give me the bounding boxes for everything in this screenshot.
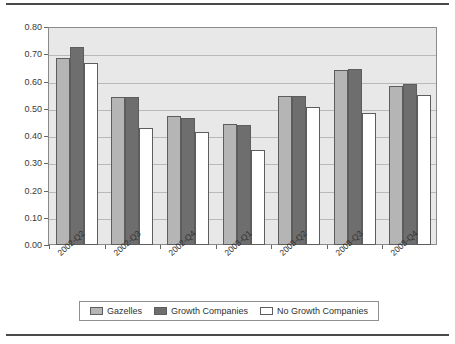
y-axis-tick-label: 0.80: [24, 23, 42, 32]
legend-label: Gazelles: [107, 306, 142, 316]
y-axis-tick-label: 0.60: [24, 78, 42, 87]
legend-swatch-icon: [90, 307, 103, 315]
bar[interactable]: [84, 63, 98, 245]
bar-group: [278, 28, 320, 245]
bars-layer: [49, 28, 436, 245]
bar[interactable]: [56, 58, 70, 245]
bar-group: [389, 28, 431, 245]
legend-swatch-icon: [260, 307, 273, 315]
bar[interactable]: [292, 96, 306, 245]
chart-figure: 0.800.700.600.500.400.300.200.100.00 200…: [0, 0, 455, 344]
bar[interactable]: [167, 116, 181, 245]
bar[interactable]: [125, 97, 139, 245]
bar[interactable]: [139, 128, 153, 245]
x-axis-tick-mark: [160, 245, 161, 249]
bar[interactable]: [251, 150, 265, 245]
y-axis: 0.800.700.600.500.400.300.200.100.00: [0, 20, 48, 252]
bar[interactable]: [334, 70, 348, 245]
legend-item[interactable]: Growth Companies: [154, 306, 248, 316]
bar-group: [167, 28, 209, 245]
bar-group: [223, 28, 265, 245]
bar-group: [111, 28, 153, 245]
bar-group: [334, 28, 376, 245]
x-axis-tick-mark: [49, 245, 50, 249]
bar[interactable]: [70, 47, 84, 245]
chart-legend: GazellesGrowth CompaniesNo Growth Compan…: [79, 301, 379, 321]
bar[interactable]: [111, 97, 125, 245]
bar[interactable]: [306, 107, 320, 245]
y-axis-tick-label: 0.20: [24, 187, 42, 196]
bar[interactable]: [389, 86, 403, 245]
bar[interactable]: [403, 84, 417, 245]
bar[interactable]: [362, 113, 376, 245]
bottom-divider-rule: [6, 334, 449, 336]
bar[interactable]: [195, 132, 209, 245]
y-axis-tick-label: 0.00: [24, 241, 42, 250]
legend-item[interactable]: Gazelles: [90, 306, 142, 316]
x-axis-tick-mark: [327, 245, 328, 249]
y-axis-tick-label: 0.40: [24, 132, 42, 141]
top-divider-rule: [6, 3, 449, 5]
legend-item[interactable]: No Growth Companies: [260, 306, 368, 316]
bar[interactable]: [223, 124, 237, 245]
x-axis: 2002-Q22002-Q32002-Q42003-Q12003-Q22003-…: [48, 245, 437, 300]
bar-group: [56, 28, 98, 245]
y-axis-tick-label: 0.10: [24, 214, 42, 223]
legend-swatch-icon: [154, 307, 167, 315]
bar[interactable]: [417, 95, 431, 245]
bar[interactable]: [348, 69, 362, 245]
x-axis-tick-mark: [105, 245, 106, 249]
y-axis-tick-label: 0.70: [24, 50, 42, 59]
y-axis-tick-label: 0.30: [24, 159, 42, 168]
x-axis-tick-mark: [216, 245, 217, 249]
legend-label: No Growth Companies: [277, 306, 368, 316]
x-axis-tick-mark: [271, 245, 272, 249]
y-axis-tick-label: 0.50: [24, 105, 42, 114]
legend-label: Growth Companies: [171, 306, 248, 316]
bar[interactable]: [278, 96, 292, 245]
bar[interactable]: [237, 125, 251, 245]
x-axis-tick-mark: [382, 245, 383, 249]
bar[interactable]: [181, 118, 195, 245]
